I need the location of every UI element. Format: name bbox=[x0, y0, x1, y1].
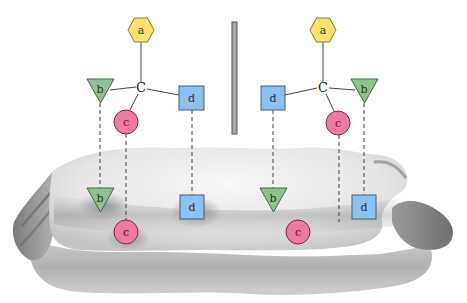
substituent-a-hexagon: a bbox=[310, 18, 336, 42]
enzyme-right-knob bbox=[392, 201, 453, 250]
svg-text:d: d bbox=[188, 201, 195, 214]
svg-text:a: a bbox=[138, 24, 145, 37]
enzyme-chirality-diagram: a C b c d a C bbox=[0, 0, 467, 303]
binding-site-c-circle: c bbox=[286, 220, 310, 244]
mirror-divider bbox=[232, 22, 237, 134]
svg-text:c: c bbox=[123, 226, 129, 239]
binding-site-d-square: d bbox=[352, 195, 376, 219]
substituent-b-triangle: b bbox=[87, 79, 114, 103]
enzyme-surface bbox=[13, 147, 453, 294]
substituent-c-circle: c bbox=[114, 110, 138, 134]
svg-text:b: b bbox=[96, 192, 103, 205]
svg-text:d: d bbox=[360, 201, 367, 214]
svg-text:c: c bbox=[123, 116, 129, 129]
svg-text:b: b bbox=[269, 192, 276, 205]
substituent-d-square: d bbox=[179, 86, 204, 110]
chiral-center-label: C bbox=[136, 80, 146, 95]
binding-site-c-circle: c bbox=[114, 220, 138, 244]
svg-text:a: a bbox=[320, 24, 327, 37]
substituent-b-triangle: b bbox=[351, 79, 378, 103]
svg-text:b: b bbox=[360, 83, 367, 96]
svg-text:d: d bbox=[188, 92, 195, 105]
svg-text:c: c bbox=[335, 117, 341, 130]
svg-text:b: b bbox=[96, 83, 103, 96]
chiral-center-label: C bbox=[318, 80, 328, 95]
svg-text:d: d bbox=[269, 92, 276, 105]
substituent-c-circle: c bbox=[326, 111, 350, 135]
substituent-d-square: d bbox=[261, 86, 285, 110]
svg-text:c: c bbox=[295, 226, 301, 239]
binding-site-d-square: d bbox=[180, 195, 204, 219]
substituent-a-hexagon: a bbox=[128, 18, 154, 42]
